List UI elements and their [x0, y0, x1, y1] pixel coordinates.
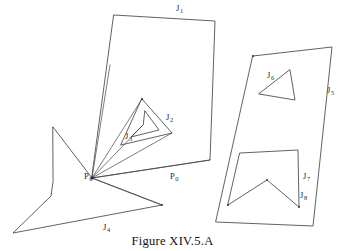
- label-P0: P0: [170, 172, 178, 181]
- label-J5-base: J: [327, 85, 331, 95]
- label-P0-subscript: 0: [175, 175, 178, 182]
- label-J7-subscript: 7: [307, 175, 310, 182]
- ray-P6-to-quad-corner: [92, 160, 210, 178]
- label-J4-base: J: [103, 222, 107, 232]
- vertex-notch-bottom-left: [227, 204, 229, 206]
- label-J4: J4: [103, 223, 110, 232]
- ray-P6-to-triangle-right: [92, 133, 172, 178]
- label-J8: J8: [300, 191, 307, 200]
- ray-P6-to-star-tip: [92, 178, 162, 205]
- label-J6-subscript: 6: [271, 74, 274, 81]
- vertex-triangle-J2-apex: [141, 98, 143, 100]
- label-J5-subscript: 5: [331, 89, 334, 96]
- label-J6-base: J: [267, 70, 271, 80]
- right-quadrilateral-J5: [216, 47, 332, 226]
- label-J1-base: J: [176, 3, 180, 13]
- vertex-right-quad-topleft: [252, 55, 254, 57]
- notched-polygon-J7-J8: [228, 150, 299, 207]
- label-J3: J3: [125, 132, 132, 141]
- vertex-notch-peak: [266, 179, 268, 181]
- label-J1: J1: [176, 4, 183, 13]
- label-P6-subscript: 6: [89, 175, 92, 182]
- label-J2-base: J: [166, 112, 170, 122]
- label-J5: J5: [327, 86, 334, 95]
- label-J4-subscript: 4: [107, 226, 110, 233]
- ray-P6-to-J1-left-edge: [92, 65, 110, 178]
- label-J2-subscript: 2: [170, 116, 173, 123]
- label-J1-subscript: 1: [180, 7, 183, 14]
- label-J7: J7: [303, 172, 310, 181]
- label-J2: J2: [166, 113, 173, 122]
- label-J8-base: J: [300, 190, 304, 200]
- geometry-canvas: [0, 0, 345, 251]
- ray-P6-to-arrow-notch: [92, 125, 143, 178]
- rays-layer: [92, 65, 210, 205]
- label-J7-base: J: [303, 171, 307, 181]
- label-J3-subscript: 3: [129, 135, 132, 142]
- vertex-notch-bottom-right: [298, 206, 300, 208]
- figure-container: J1J2J3J4J5J6J7J8P6P0 Figure XIV.5.A: [0, 0, 345, 251]
- shapes-layer: [13, 15, 332, 233]
- figure-caption: Figure XIV.5.A: [0, 234, 345, 249]
- outer-quadrilateral-J1: [92, 15, 215, 178]
- label-J8-subscript: 8: [304, 194, 307, 201]
- ray-P6-to-triangle-apex: [92, 99, 142, 178]
- label-J3-base: J: [125, 131, 129, 141]
- vertex-star-right-tip: [161, 204, 163, 206]
- label-J6: J6: [267, 71, 274, 80]
- triangle-J6: [259, 70, 295, 100]
- label-P6: P6: [84, 172, 92, 181]
